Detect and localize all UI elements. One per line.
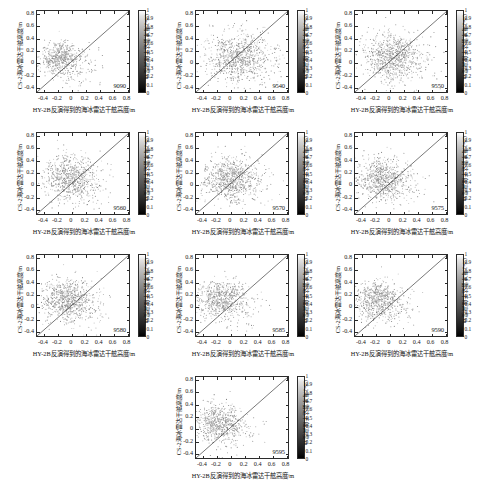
colorbar-tick-label: 1 [465,252,468,258]
y-tick-label: 0 [349,59,352,65]
y-tick-label: 0.2 [185,169,193,175]
x-tickmark [446,133,447,136]
x-tick-label: 0 [228,95,231,101]
x-tickmark [362,11,363,14]
x-tickmark [404,212,405,215]
x-tick-label: 0.8 [441,95,449,101]
x-tick-label: 0.6 [268,461,276,467]
y-tickmark [355,185,358,186]
x-tick-label: -0.4 [38,95,48,101]
y-tickmark [355,320,358,321]
x-tickmark [114,255,115,258]
y-tickmark [355,270,358,271]
x-tick-label: 0 [228,461,231,467]
data-points [37,31,103,92]
y-tick-label: 0 [349,303,352,309]
y-tickmark [286,26,289,27]
x-tickmark [86,11,87,14]
reference-line-1to1 [196,133,288,214]
x-tickmark [259,212,260,215]
y-tick-label: 0.6 [185,144,193,150]
y-tick-label: 0.4 [185,401,193,407]
x-tickmark [259,133,260,136]
y-tickmark [355,63,358,64]
y-tickmark [196,429,199,430]
x-tick-label: 0 [387,95,390,101]
y-axis-label: CS-2海冰雷达干舷高度/m [175,374,182,470]
y-tickmark [355,283,358,284]
x-tick-label: 0.8 [282,217,290,223]
y-tick-label: 0.8 [185,254,193,260]
x-tick-label: 0.4 [95,95,103,101]
y-tick-label: 0 [31,181,34,187]
x-tick-label: 0.8 [441,339,449,345]
x-tick-label: 0.4 [254,217,262,223]
y-tick-label: -0.4 [24,328,34,334]
x-tickmark [404,133,405,136]
scatter-canvas [196,255,288,336]
panel-id-label: 9560 [113,204,126,211]
x-tickmark [446,255,447,258]
plot-area: -0.4-0.200.20.40.60.8-0.4-0.200.20.40.60… [195,132,289,215]
y-tickmark [286,63,289,64]
y-tickmark [37,320,40,321]
y-axis-label: CS-2海冰雷达干舷高度/m [175,252,182,348]
y-tickmark [196,51,199,52]
x-tick-label: -0.4 [197,461,207,467]
reference-line-1to1 [37,11,129,92]
plot-area: -0.4-0.200.20.40.60.8-0.4-0.200.20.40.60… [354,132,448,215]
y-tickmark [286,392,289,393]
y-tickmark [286,39,289,40]
y-tick-label: 0.2 [344,47,352,53]
y-tickmark [127,26,130,27]
x-tickmark [259,334,260,337]
x-tick-label: 0.8 [282,339,290,345]
x-axis-label: HY-2B反演得到的海冰雷达干舷高度/m [340,228,464,235]
x-tickmark [100,255,101,258]
x-tickmark [390,255,391,258]
x-tick-label: -0.2 [211,95,221,101]
x-tickmark [390,90,391,93]
plot-area: -0.4-0.200.20.40.60.8-0.4-0.200.20.40.60… [195,254,289,337]
data-points [196,271,277,333]
x-tickmark [58,11,59,14]
x-tickmark [128,133,129,136]
x-tickmark [231,456,232,459]
x-tickmark [418,11,419,14]
x-tickmark [245,456,246,459]
x-axis-label: HY-2B反演得到的海冰雷达干舷高度/m [181,228,305,235]
y-tickmark [196,76,199,77]
x-tickmark [245,11,246,14]
y-tickmark [196,332,199,333]
axes-box: 9550 [354,10,448,93]
x-tickmark [217,212,218,215]
x-tickmark [44,11,45,14]
x-tickmark [273,11,274,14]
y-tick-label: 0.6 [26,22,34,28]
y-tickmark [445,76,448,77]
y-tickmark [445,51,448,52]
y-tick-label: 0 [31,303,34,309]
y-tick-label: 0.6 [26,266,34,272]
y-tickmark [355,173,358,174]
colorbar-label: CS-2海冰雷达干舷高度/m [462,136,468,214]
y-tickmark [127,14,130,15]
x-tick-label: 0.8 [282,95,290,101]
y-tick-label: 0.6 [344,266,352,272]
scatter-canvas [37,255,129,336]
y-tick-label: 0 [31,59,34,65]
reference-line-1to1 [196,377,288,458]
y-tick-label: 0.4 [26,279,34,285]
y-tickmark [445,270,448,271]
x-tickmark [231,90,232,93]
x-tickmark [217,90,218,93]
x-tick-label: 0.8 [123,339,131,345]
x-tickmark [418,133,419,136]
x-tickmark [273,334,274,337]
y-tickmark [286,148,289,149]
x-tickmark [404,11,405,14]
x-tick-label: 0.2 [240,217,248,223]
y-tick-label: 0.8 [344,132,352,138]
y-tickmark [37,148,40,149]
y-tickmark [127,161,130,162]
